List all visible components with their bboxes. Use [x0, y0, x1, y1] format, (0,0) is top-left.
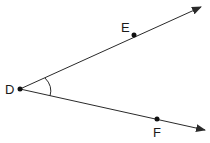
label-e: E: [121, 20, 130, 35]
point-e: [132, 33, 137, 38]
label-d: D: [5, 82, 14, 97]
angle-diagram: D E F: [0, 0, 210, 143]
ray-de: [20, 7, 201, 89]
ray-df: [20, 89, 205, 130]
point-f: [155, 117, 160, 122]
point-d: [18, 87, 23, 92]
angle-arc: [45, 78, 51, 96]
label-f: F: [153, 125, 161, 140]
